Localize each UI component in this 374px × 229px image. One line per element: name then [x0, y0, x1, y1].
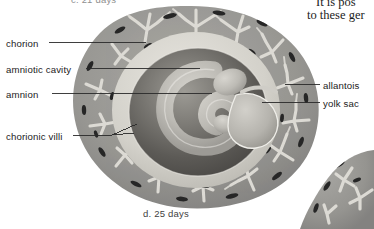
label-chorionic-villi: chorionic villi	[6, 131, 63, 142]
body-text-line-2: to these ger	[307, 9, 365, 22]
caption-panel-c: c. 21 days	[71, 0, 116, 5]
label-amniotic-cavity: amniotic cavity	[6, 64, 71, 75]
caption-panel-d: d. 25 days	[143, 208, 189, 219]
label-chorion: chorion	[6, 38, 39, 49]
leader-lines	[0, 0, 374, 229]
figure-canvas: It is pos to these ger c. 21 days d. 25 …	[0, 0, 374, 229]
label-amnion: amnion	[6, 89, 38, 100]
label-allantois: allantois	[323, 80, 360, 91]
label-yolk-sac: yolk sac	[323, 98, 359, 109]
